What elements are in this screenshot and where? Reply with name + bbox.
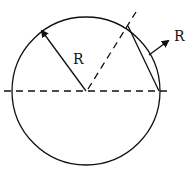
- radius-label: R: [73, 51, 84, 67]
- chord-arrow-label: R: [174, 28, 185, 44]
- outward-arrow: [149, 41, 168, 55]
- circle-diagram: R R: [0, 0, 196, 179]
- chord-line: [128, 26, 159, 91]
- radial-dashed-line: [88, 12, 136, 89]
